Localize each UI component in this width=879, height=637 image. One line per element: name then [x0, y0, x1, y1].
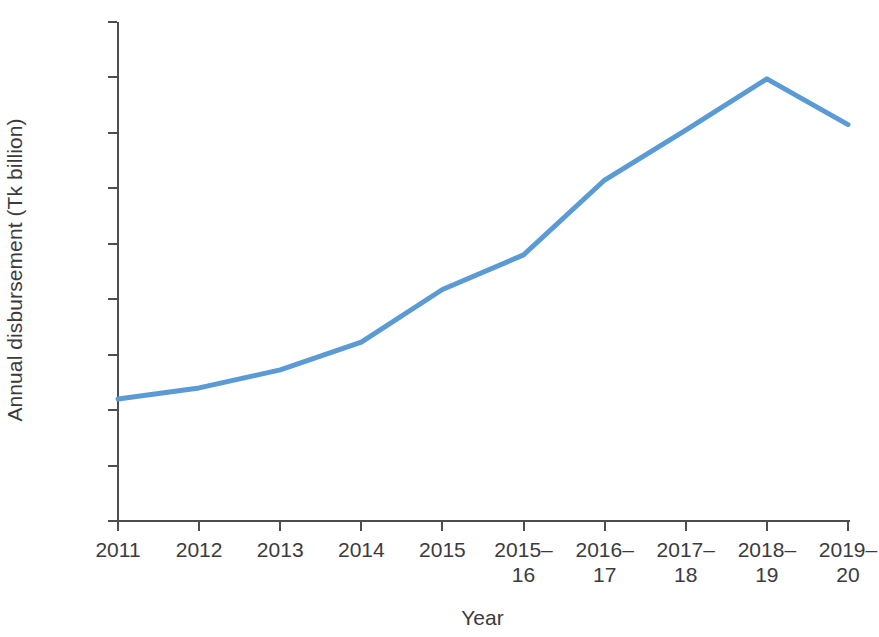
- x-tick-label: 2017–18: [641, 537, 731, 587]
- x-tick-mark: [198, 522, 200, 531]
- x-tick-mark: [360, 522, 362, 531]
- x-tick-label: 2018–19: [722, 537, 812, 587]
- y-tick-mark: [108, 21, 117, 23]
- y-tick-mark: [108, 132, 117, 134]
- x-tick-label: 2019–20: [803, 537, 879, 587]
- x-axis-title: Year: [117, 606, 848, 630]
- x-tick-mark: [279, 522, 281, 531]
- x-tick-mark: [847, 522, 849, 531]
- series-line-annual-disbursement: [118, 79, 848, 399]
- line-chart-figure: Annual disbursement (Tk billion) 0200400…: [0, 0, 879, 637]
- x-tick-label: 2016–17: [560, 537, 650, 587]
- y-tick-mark: [108, 354, 117, 356]
- x-axis-line: [117, 520, 850, 522]
- y-tick-mark: [108, 298, 117, 300]
- y-axis-title: Annual disbursement (Tk billion): [0, 0, 30, 540]
- x-tick-label: 2013: [235, 537, 325, 562]
- x-tick-mark: [117, 522, 119, 531]
- y-tick-mark: [108, 243, 117, 245]
- x-tick-mark: [685, 522, 687, 531]
- x-tick-label: 2015: [397, 537, 487, 562]
- y-tick-mark: [108, 520, 117, 522]
- x-tick-label: 2015–16: [479, 537, 569, 587]
- y-tick-mark: [108, 409, 117, 411]
- y-tick-mark: [108, 465, 117, 467]
- x-tick-mark: [604, 522, 606, 531]
- x-tick-label: 2011: [73, 537, 163, 562]
- x-tick-mark: [441, 522, 443, 531]
- y-tick-mark: [108, 187, 117, 189]
- x-tick-label: 2012: [154, 537, 244, 562]
- y-tick-mark: [108, 76, 117, 78]
- x-tick-mark: [523, 522, 525, 531]
- x-tick-mark: [766, 522, 768, 531]
- y-axis-line: [117, 22, 119, 522]
- x-tick-label: 2014: [316, 537, 406, 562]
